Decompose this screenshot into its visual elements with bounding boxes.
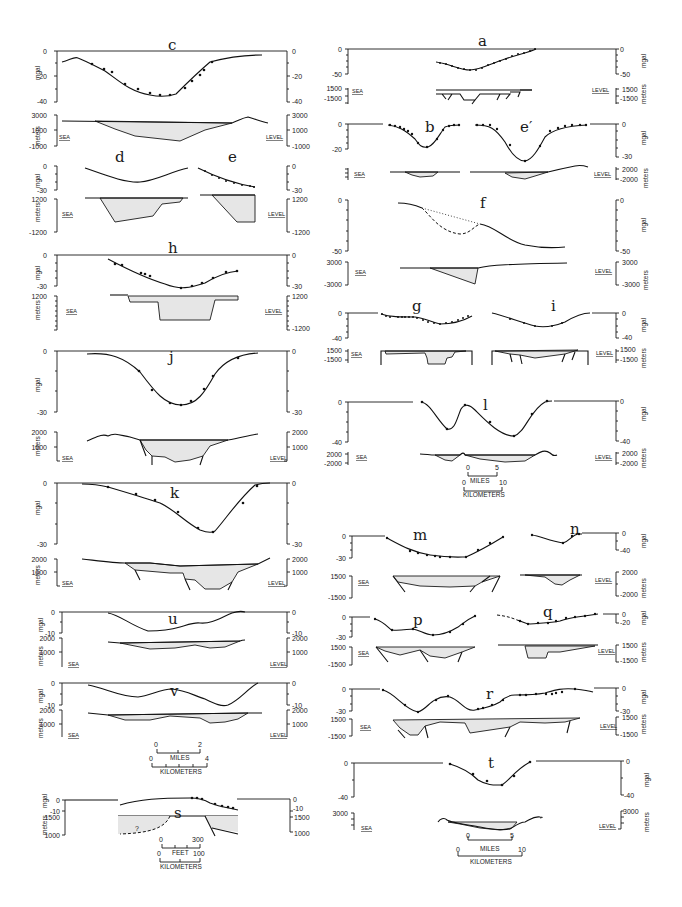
svg-text:2000: 2000 xyxy=(622,166,638,173)
svg-text:0: 0 xyxy=(456,846,460,853)
svg-text:1200: 1200 xyxy=(292,196,308,203)
svg-text:1500: 1500 xyxy=(294,814,310,821)
svg-text:-2000: -2000 xyxy=(324,460,342,467)
svg-text:LEVEL: LEVEL xyxy=(596,350,613,356)
svg-text:LEVEL: LEVEL xyxy=(268,211,285,217)
svg-text:3000: 3000 xyxy=(332,810,348,817)
panel-a: a 0 -50 0 -50 mgal 1500 -1500 1500 -1500… xyxy=(324,32,648,104)
svg-text:0: 0 xyxy=(622,310,626,317)
svg-text:2000: 2000 xyxy=(292,429,308,436)
svg-text:LEVEL: LEVEL xyxy=(595,268,612,274)
svg-text:0: 0 xyxy=(622,611,626,618)
panel-g-i: g i 0 -40 0 -40 mgal 1500 -1500 1500 -15… xyxy=(324,297,648,368)
svg-text:0: 0 xyxy=(626,758,630,765)
svg-text:0: 0 xyxy=(43,480,47,487)
panel-k: k 0 -30 0 -30 mgal 2000 1000 2000 1000 m… xyxy=(31,480,307,590)
svg-text:-1500: -1500 xyxy=(620,356,638,363)
svg-text:LEVEL: LEVEL xyxy=(592,87,609,93)
svg-text:2000: 2000 xyxy=(31,556,47,563)
svg-text:mgal: mgal xyxy=(640,130,648,145)
panel-j: j 0 -30 0 -30 mgal 2000 1000 2000 1000 m… xyxy=(31,348,307,465)
svg-text:mgal: mgal xyxy=(41,793,49,808)
svg-text:m: m xyxy=(413,526,427,544)
svg-text:-1500: -1500 xyxy=(620,95,638,102)
svg-text:0: 0 xyxy=(622,685,626,692)
svg-text:SEA: SEA xyxy=(352,88,363,94)
panel-h: h 0 -30 0 -30 mgal 1200 1200 -1200 meter… xyxy=(31,239,310,332)
svg-text:-40: -40 xyxy=(338,794,348,801)
svg-text:FEET: FEET xyxy=(172,849,189,856)
svg-text:meters: meters xyxy=(640,347,647,368)
svg-text:-2000: -2000 xyxy=(620,176,638,183)
panel-t: t 0 -40 0 -40 mgal 3000 3000 meters SEA … xyxy=(332,754,651,832)
svg-text:1000: 1000 xyxy=(292,444,308,451)
svg-text:5: 5 xyxy=(495,464,499,471)
svg-text:-30: -30 xyxy=(37,541,47,548)
svg-text:0: 0 xyxy=(293,796,297,803)
svg-text:g: g xyxy=(412,297,422,315)
panel-r: r 0 -30 0 -30 mgal 1500 -1500 1500 -1500… xyxy=(328,685,648,740)
svg-text:0: 0 xyxy=(149,755,153,762)
svg-text:LEVEL: LEVEL xyxy=(599,823,616,829)
svg-text:0: 0 xyxy=(622,530,626,537)
svg-text:0: 0 xyxy=(51,680,55,687)
svg-text:1500: 1500 xyxy=(330,573,346,580)
svg-text:0: 0 xyxy=(292,163,296,170)
svg-text:v: v xyxy=(169,682,179,700)
svg-text:MILES: MILES xyxy=(170,754,190,761)
svg-text:mgal: mgal xyxy=(640,406,648,421)
svg-text:-1200: -1200 xyxy=(29,229,47,236)
svg-text:-1000: -1000 xyxy=(292,143,310,150)
svg-text:LEVEL: LEVEL xyxy=(266,134,283,140)
svg-text:1000: 1000 xyxy=(292,569,308,576)
svg-text:300: 300 xyxy=(192,836,204,843)
panel-m-n: m n 0 -30 0 -40 mgal 1500 -1500 2000 -20… xyxy=(328,520,648,601)
svg-text:-2000: -2000 xyxy=(620,460,638,467)
svg-text:0: 0 xyxy=(466,832,470,839)
svg-text:meters: meters xyxy=(37,717,44,738)
panel-p-q: p q 0 -30 0 -20 mgal 1500 -1500 1500 -15… xyxy=(328,603,648,668)
svg-text:LEVEL: LEVEL xyxy=(270,455,287,461)
svg-text:mgal: mgal xyxy=(34,377,42,392)
svg-text:s: s xyxy=(174,804,182,822)
panel-u: u 0 -10 0 -10 mgal 2000 1000 2000 1000 m… xyxy=(37,609,308,667)
panel-l: l 0 -40 0 -40 mgal 2000 -2000 2000 -2000… xyxy=(324,396,648,468)
svg-text:e: e xyxy=(228,148,237,166)
svg-text:1500: 1500 xyxy=(330,644,346,651)
svg-text:-1500: -1500 xyxy=(620,657,638,664)
svg-text:r: r xyxy=(486,685,494,703)
svg-text:-20: -20 xyxy=(292,73,302,80)
svg-text:mgal: mgal xyxy=(643,772,651,787)
svg-text:10: 10 xyxy=(518,846,526,853)
svg-text:-3000: -3000 xyxy=(324,281,342,288)
svg-text:1500: 1500 xyxy=(330,716,346,723)
scale-bar-l: 0 5 MILES 0 10 KILOMETERS xyxy=(462,464,507,498)
svg-text:u: u xyxy=(168,610,178,628)
panel-v: v 0 -10 0 -10 mgal 2000 1000 2000 1000 m… xyxy=(37,680,308,738)
svg-text:meters: meters xyxy=(34,435,41,456)
svg-text:meters: meters xyxy=(640,83,647,104)
svg-text:meters: meters xyxy=(34,299,41,320)
svg-text:-40: -40 xyxy=(37,98,47,105)
svg-text:-50: -50 xyxy=(332,71,342,78)
svg-text:-30: -30 xyxy=(37,283,47,290)
svg-text:SEA: SEA xyxy=(62,211,73,217)
svg-text:f: f xyxy=(480,194,487,212)
svg-text:1200: 1200 xyxy=(292,293,308,300)
svg-text:10: 10 xyxy=(499,479,507,486)
svg-text:0: 0 xyxy=(292,48,296,55)
svg-text:-40: -40 xyxy=(332,335,342,342)
svg-text:2000: 2000 xyxy=(39,635,55,642)
svg-text:1200: 1200 xyxy=(31,293,47,300)
svg-text:KILOMETERS: KILOMETERS xyxy=(470,858,513,865)
svg-text:2000: 2000 xyxy=(292,707,308,714)
svg-text:0: 0 xyxy=(292,609,296,616)
svg-text:SEA: SEA xyxy=(361,825,372,831)
svg-text:a: a xyxy=(478,32,487,50)
svg-text:2000: 2000 xyxy=(622,569,638,576)
svg-text:0: 0 xyxy=(154,741,158,748)
svg-text:-30: -30 xyxy=(292,283,302,290)
svg-text:meters: meters xyxy=(640,641,647,662)
svg-text:1500: 1500 xyxy=(622,714,638,721)
svg-text:-50: -50 xyxy=(620,248,630,255)
